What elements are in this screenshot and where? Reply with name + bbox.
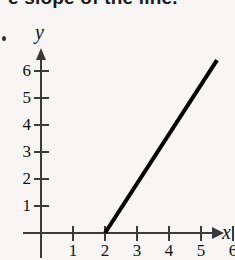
y-tick (34, 124, 49, 126)
y-tick-label: 6 (13, 62, 31, 79)
data-line (105, 60, 217, 233)
y-axis-line (40, 58, 42, 258)
x-tick-label: 4 (160, 242, 178, 259)
x-tick-label: 5 (192, 242, 210, 259)
x-tick (232, 226, 234, 241)
y-tick (34, 205, 49, 207)
x-tick-label: 1 (64, 242, 82, 259)
y-tick-label: 1 (13, 197, 31, 214)
y-tick (34, 70, 49, 72)
x-axis-label: x (222, 222, 231, 242)
x-tick (168, 226, 170, 241)
clipped-heading-text: e slope of the line. (8, 0, 235, 9)
x-tick (72, 226, 74, 241)
y-axis-arrow-icon (36, 48, 46, 60)
x-axis-line (23, 232, 215, 234)
x-tick (136, 226, 138, 241)
y-tick-label: 5 (13, 89, 31, 106)
x-tick-label: 2 (96, 242, 114, 259)
x-tick-label: 3 (128, 242, 146, 259)
y-tick (34, 151, 49, 153)
y-tick-label: 4 (13, 116, 31, 133)
y-tick-label: 3 (13, 143, 31, 160)
x-tick-label: 6 (224, 242, 235, 259)
y-axis-label: y (35, 22, 44, 42)
margin-speck (2, 36, 6, 41)
y-tick (34, 97, 49, 99)
y-tick-label: 2 (13, 170, 31, 187)
y-tick (34, 178, 49, 180)
x-tick (104, 226, 106, 241)
x-tick (200, 226, 202, 241)
graph-figure: e slope of the line. y x 123456123456 (0, 0, 235, 260)
series-layer (105, 60, 217, 233)
